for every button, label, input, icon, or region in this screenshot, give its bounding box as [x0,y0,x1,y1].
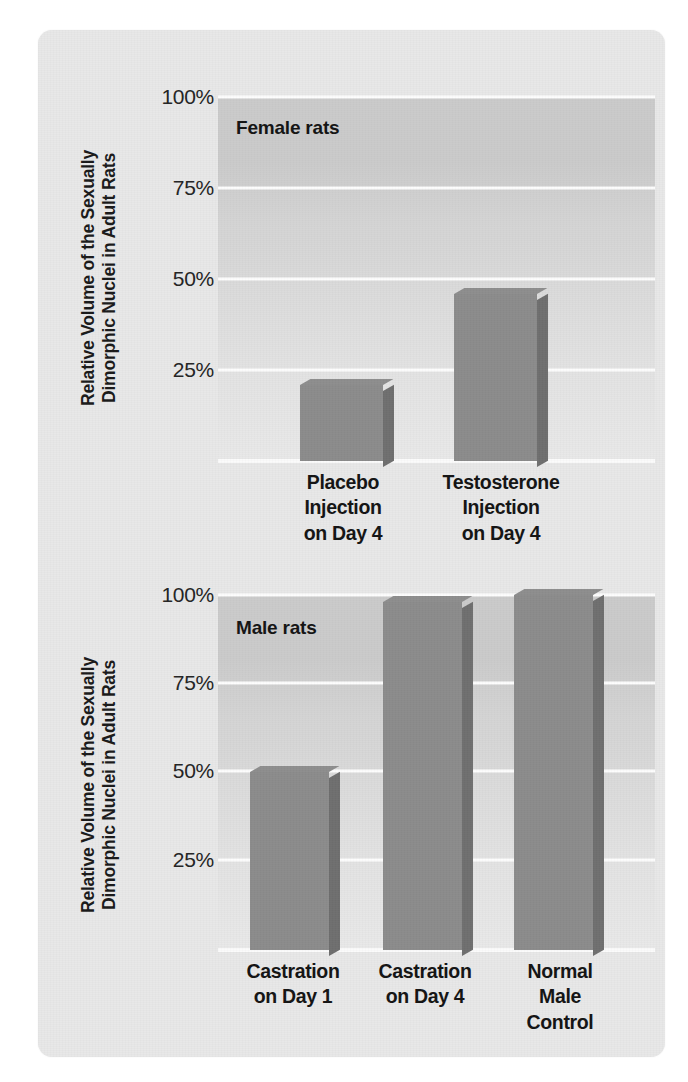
y-axis-title-line1: Relative Volume of the Sexually [78,150,99,406]
bar-front-face [454,294,537,461]
bar-normal-male-control [514,595,593,950]
y-tick-25: 25% [173,358,214,382]
bar-front-face [300,385,383,461]
bar-side-face [593,595,604,956]
bar-side-face [537,294,548,467]
y-axis-ticks-female: 100% 75% 50% 25% [136,48,214,548]
bar-testosterone-injection [454,294,537,461]
x-label-line1: Normal [480,959,640,984]
bar-group-male [218,595,655,950]
bar-side-face [383,385,394,467]
bar-castration-day-4 [383,602,462,950]
bar-front-face [383,602,462,950]
bar-side-face [462,602,473,956]
y-axis-title-line1: Relative Volume of the Sexually [78,657,99,913]
chart-female-rats: Relative Volume of the Sexually Dimorphi… [38,48,665,548]
x-label-line3: Control [480,1010,640,1035]
y-axis-title-female: Relative Volume of the Sexually Dimorphi… [68,78,130,478]
plot-area-female: Female rats [218,97,655,461]
plot-area-male: Male rats [218,595,655,950]
bar-side-face [329,772,340,956]
bar-castration-day-1 [250,772,329,950]
y-axis-title-male: Relative Volume of the Sexually Dimorphi… [68,585,130,985]
y-axis-ticks-male: 100% 75% 50% 25% [136,543,214,1053]
x-label-line2: Injection [403,495,599,520]
figure-card: Relative Volume of the Sexually Dimorphi… [38,30,665,1057]
bar-group-female [218,97,655,461]
bar-placebo-injection [300,385,383,461]
y-tick-100: 100% [161,85,214,109]
y-tick-75: 75% [173,671,214,695]
bar-front-face [514,595,593,950]
y-axis-title-line2: Dimorphic Nuclei in Adult Rats [99,153,120,403]
chart-male-rats: Relative Volume of the Sexually Dimorphi… [38,543,665,1053]
y-axis-title-line2: Dimorphic Nuclei in Adult Rats [99,660,120,910]
x-label-line1: Testosterone [403,470,599,495]
y-tick-50: 50% [173,759,214,783]
y-tick-25: 25% [173,848,214,872]
y-tick-100: 100% [161,583,214,607]
y-tick-75: 75% [173,176,214,200]
bar-front-face [250,772,329,950]
x-label-testosterone: Testosterone Injection on Day 4 [403,470,599,546]
x-label-line2: Male [480,984,640,1009]
x-label-normal-male-control: Normal Male Control [480,959,640,1035]
y-tick-50: 50% [173,267,214,291]
